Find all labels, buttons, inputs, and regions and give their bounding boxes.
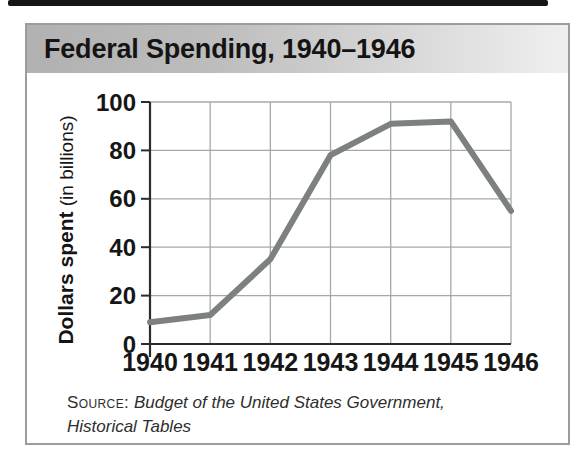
x-tick-label: 1940	[122, 348, 178, 376]
y-tick-label: 60	[109, 185, 136, 212]
y-tick-label: 20	[109, 282, 136, 309]
x-tick-label: 1945	[423, 348, 479, 376]
y-tick-label: 100	[96, 89, 136, 116]
x-tick-label: 1941	[182, 348, 238, 376]
page-top-rule	[8, 0, 548, 6]
source-text-line2: Historical Tables	[67, 417, 191, 436]
y-tick-label: 80	[109, 137, 136, 164]
y-tick-label: 40	[109, 234, 136, 261]
x-tick-label: 1946	[483, 348, 539, 376]
x-tick-label: 1942	[243, 348, 299, 376]
source-note: Source: Budget of the United States Gove…	[67, 391, 445, 439]
chart-title-bar: Federal Spending, 1940–1946	[27, 25, 568, 73]
source-label: Source:	[67, 393, 129, 412]
x-tick-label: 1944	[363, 348, 419, 376]
x-tick-label: 1943	[303, 348, 359, 376]
chart-card: Federal Spending, 1940–1946 Dollars spen…	[25, 23, 570, 445]
source-text-line1: Budget of the United States Government,	[134, 393, 445, 412]
page-title: Federal Spending, 1940–1946	[44, 34, 415, 65]
line-chart: 0204060801001940194119421943194419451946	[27, 73, 570, 385]
